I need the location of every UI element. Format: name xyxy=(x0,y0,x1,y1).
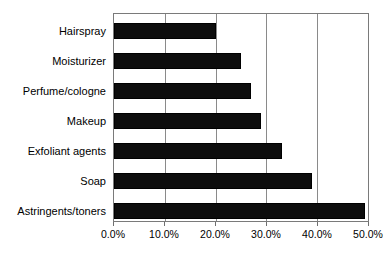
bar-chart: Hairspray Moisturizer Perfume/cologne Ma… xyxy=(0,0,391,263)
category-label-moisturizer: Moisturizer xyxy=(52,54,106,68)
xtick-label-10: 10.0% xyxy=(149,228,179,241)
category-label-exfoliant-agents: Exfoliant agents xyxy=(28,144,106,158)
value-axis: 0.0% 10.0% 20.0% 30.0% 40.0% 50.0% xyxy=(0,228,391,242)
xtick-label-20: 20.0% xyxy=(200,228,230,241)
bar-perfume-cologne xyxy=(114,83,251,99)
bar-soap xyxy=(114,173,312,189)
xtick-label-0: 0.0% xyxy=(101,228,125,241)
xtick-10 xyxy=(164,222,165,226)
category-axis: Hairspray Moisturizer Perfume/cologne Ma… xyxy=(0,13,110,222)
category-label-astringents-toners: Astringents/toners xyxy=(17,204,106,218)
bar-hairspray xyxy=(114,23,216,39)
category-label-soap: Soap xyxy=(80,174,106,188)
gridline-40 xyxy=(317,14,318,221)
xtick-20 xyxy=(215,222,216,226)
plot-area xyxy=(113,13,369,222)
xtick-label-30: 30.0% xyxy=(251,228,281,241)
gridline-30 xyxy=(266,14,267,221)
bar-makeup xyxy=(114,113,261,129)
bar-astringents-toners xyxy=(114,203,365,219)
bar-exfoliant-agents xyxy=(114,143,282,159)
xtick-label-40: 40.0% xyxy=(302,228,332,241)
category-label-perfume-cologne: Perfume/cologne xyxy=(23,84,106,98)
xtick-label-50: 50.0% xyxy=(353,228,383,241)
xtick-50 xyxy=(368,222,369,226)
category-label-hairspray: Hairspray xyxy=(59,24,106,38)
xtick-0 xyxy=(113,222,114,226)
xtick-40 xyxy=(317,222,318,226)
category-label-makeup: Makeup xyxy=(67,114,106,128)
xtick-30 xyxy=(266,222,267,226)
bar-moisturizer xyxy=(114,53,241,69)
